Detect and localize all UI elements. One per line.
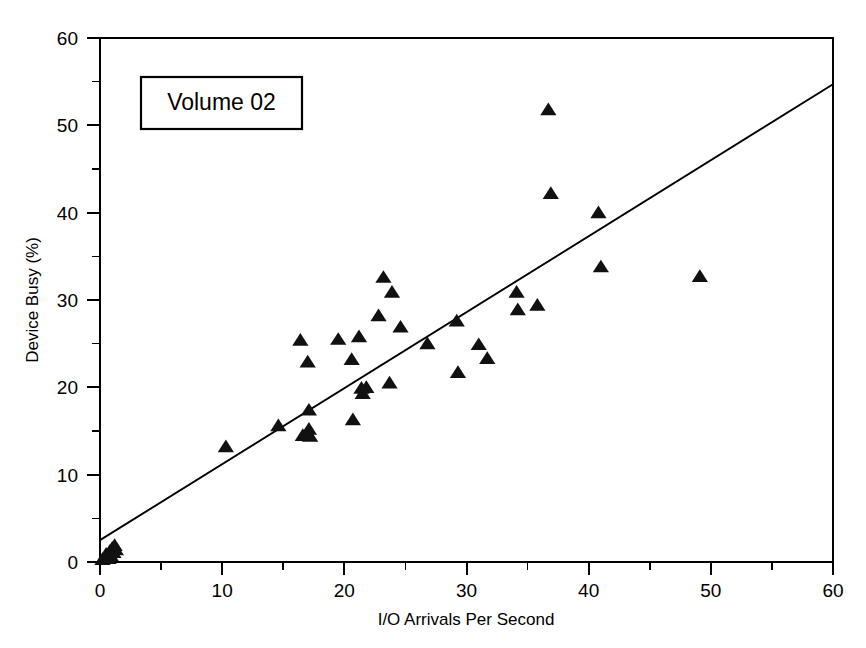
data-point-marker [450,365,466,378]
data-point-marker [510,302,526,315]
x-tick-label: 50 [700,580,721,601]
y-tick-label: 60 [57,28,78,49]
y-axis-tick-labels: 0102030405060 [57,28,78,573]
x-tick-label: 40 [578,580,599,601]
regression-line [100,84,833,540]
y-tick-label: 20 [57,377,78,398]
data-point-marker [292,333,308,346]
chart-figure: 0102030405060 0102030405060 I/O Arrivals… [0,0,866,648]
x-tick-label: 30 [456,580,477,601]
y-tick-label: 30 [57,290,78,311]
data-point-marker [419,337,435,350]
data-point-marker [590,206,606,219]
x-axis-title: I/O Arrivals Per Second [378,610,555,629]
data-point-marker [344,352,360,365]
data-point-marker [345,413,361,426]
y-tick-label: 40 [57,203,78,224]
data-point-marker [370,309,386,322]
y-tick-label: 10 [57,465,78,486]
data-point-marker [392,320,408,333]
annotation-box: Volume 02 [141,77,302,129]
y-axis-title: Device Busy (%) [23,237,42,363]
y-tick-label: 50 [57,115,78,136]
data-point-markers [94,102,708,564]
x-tick-label: 60 [822,580,843,601]
x-axis-tick-labels: 0102030405060 [95,580,844,601]
scatter-plot-svg: 0102030405060 0102030405060 I/O Arrivals… [0,0,866,648]
y-axis-ticks [87,38,100,562]
data-point-marker [330,332,346,345]
annotation-label: Volume 02 [167,89,276,115]
data-point-marker [384,285,400,298]
data-point-marker [381,376,397,389]
data-point-marker [540,102,556,115]
data-point-marker [351,330,367,343]
x-tick-label: 0 [95,580,106,601]
x-tick-label: 20 [334,580,355,601]
data-point-marker [543,186,559,199]
data-point-marker [301,403,317,416]
x-axis-ticks [100,562,833,575]
data-point-marker [479,351,495,364]
data-point-marker [300,355,316,368]
data-point-marker [471,337,487,350]
data-point-marker [593,260,609,273]
data-point-marker [375,270,391,283]
data-point-marker [218,440,234,453]
trend-line [100,84,833,540]
data-point-marker [692,269,708,282]
data-point-marker [508,285,524,298]
x-tick-label: 10 [212,580,233,601]
y-tick-label: 0 [67,552,78,573]
data-point-marker [529,298,545,311]
